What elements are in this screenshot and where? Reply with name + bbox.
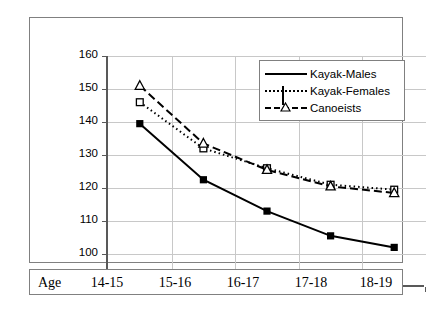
data-point [391,244,398,251]
data-point [327,232,334,239]
y-tick-label: 100 [58,247,98,258]
x-tick-label-0: 14-15 [77,275,137,291]
x-axis-category-row: Age 14-15 15-16 16-17 17-18 18-19 [29,269,403,295]
y-tick-label: 120 [58,181,98,192]
data-point [136,99,143,106]
y-tick-label: 160 [58,49,98,60]
y-tick-label: 110 [58,214,98,225]
legend-item-kayak-males[interactable]: Kayak-Males [265,65,399,82]
x-tick-label-3: 17-18 [281,275,341,291]
legend-sample-dashed-open-triangle [265,101,307,115]
legend-label: Kayak-Males [310,68,376,80]
y-tick-label: 150 [58,82,98,93]
legend-sample-solid-filled-square [265,67,307,81]
y-tick-label: 140 [58,115,98,126]
chart-legend: Kayak-Males Kayak-Females [259,60,405,121]
legend-item-kayak-females[interactable]: Kayak-Females [265,82,399,99]
data-point [263,208,270,215]
y-tick-label: 130 [58,148,98,159]
legend-item-canoeists[interactable]: Canoeists [265,99,399,116]
x-axis-row-label: Age [38,275,61,291]
legend-label: Canoeists [310,102,361,114]
data-point [200,176,207,183]
legend-label: Kayak-Females [310,85,390,97]
data-point [199,138,208,147]
x-tick-label-1: 15-16 [145,275,205,291]
data-point [135,81,144,90]
series-line-kayak-males [140,124,394,248]
legend-sample-dotted-open-square [265,84,307,98]
data-point [136,120,143,127]
chart-frame: 90100110120130140150160 Kayak-Males Kaya… [29,17,403,263]
x-tick-label-4: 18-19 [346,275,406,291]
x-tick-mark [425,287,426,292]
chart-figure: Performance time on 500-m,s 901001101201… [0,0,430,322]
x-tick-label-2: 16-17 [213,275,273,291]
